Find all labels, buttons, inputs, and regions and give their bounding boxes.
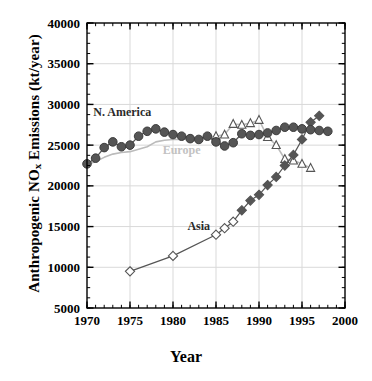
data-point-circle bbox=[272, 126, 281, 135]
data-point-circle bbox=[298, 125, 307, 134]
data-point-circle bbox=[100, 143, 109, 152]
series-label-europe: Europe bbox=[163, 143, 201, 157]
x-tick-label: 1990 bbox=[246, 313, 272, 328]
data-point-circle bbox=[246, 131, 255, 140]
data-point-circle bbox=[91, 154, 100, 163]
data-point-circle bbox=[186, 134, 195, 143]
chart-figure: Anthropogenic NOx Emissions (kt/year) N.… bbox=[0, 0, 372, 381]
data-point-circle bbox=[255, 130, 264, 139]
y-tick-label: 35000 bbox=[48, 56, 81, 71]
series-label-asia: Asia bbox=[187, 219, 210, 233]
data-point-circle bbox=[220, 142, 229, 151]
x-axis-title: Year bbox=[0, 348, 372, 366]
y-tick-label: 10000 bbox=[48, 260, 81, 275]
data-point-circle bbox=[177, 132, 186, 141]
y-tick-label: 5000 bbox=[54, 301, 80, 316]
x-tick-label: 1985 bbox=[203, 313, 230, 328]
y-tick-label: 30000 bbox=[48, 97, 81, 112]
data-point-circle bbox=[109, 138, 118, 147]
x-tick-label: 1975 bbox=[117, 313, 144, 328]
y-tick-label: 20000 bbox=[48, 178, 81, 193]
plot-canvas: N. AmericaEuropeAsia19701975198019851990… bbox=[0, 0, 372, 381]
data-point-circle bbox=[152, 125, 161, 134]
data-point-circle bbox=[306, 125, 315, 134]
data-point-circle bbox=[160, 128, 169, 137]
data-point-circle bbox=[289, 123, 298, 132]
data-point-circle bbox=[212, 138, 221, 147]
data-point-circle bbox=[134, 132, 143, 141]
data-point-circle bbox=[263, 129, 272, 138]
data-point-circle bbox=[315, 126, 324, 135]
series-label-n-america: N. America bbox=[93, 105, 151, 119]
data-point-circle bbox=[203, 132, 212, 141]
data-point-circle bbox=[117, 142, 126, 151]
x-tick-label: 2000 bbox=[332, 313, 358, 328]
x-tick-label: 1980 bbox=[160, 313, 186, 328]
data-point-circle bbox=[169, 130, 178, 139]
data-point-circle bbox=[281, 123, 290, 132]
y-tick-label: 40000 bbox=[48, 16, 81, 31]
x-tick-label: 1995 bbox=[289, 313, 316, 328]
y-tick-label: 15000 bbox=[48, 219, 81, 234]
data-point-circle bbox=[143, 127, 152, 136]
data-point-circle bbox=[126, 141, 135, 150]
data-point-circle bbox=[238, 129, 247, 138]
data-point-circle bbox=[324, 127, 333, 136]
data-point-circle bbox=[229, 138, 238, 147]
y-tick-label: 25000 bbox=[48, 138, 81, 153]
